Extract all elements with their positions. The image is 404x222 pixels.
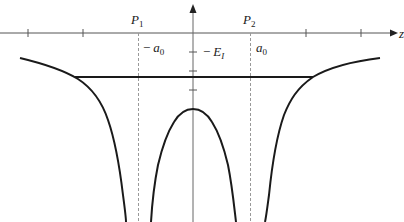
a0-label: a0 — [256, 41, 267, 57]
p2-letter: P — [243, 12, 251, 27]
right-potential-curve — [265, 58, 380, 222]
a0-sub: 0 — [263, 47, 268, 57]
neg-a0-label: −a0 — [143, 41, 164, 57]
p2-label: P2 — [243, 13, 255, 29]
neg-ei-label: −EI — [203, 45, 224, 61]
p1-sub: 1 — [139, 19, 144, 29]
neg-ei-sub: I — [221, 51, 224, 61]
x-axis-label-clipped: z — [399, 27, 404, 40]
p2-sub: 2 — [251, 19, 256, 29]
y-axis-arrow-icon — [190, 4, 197, 13]
neg-a0-minus: − — [143, 40, 150, 55]
p1-letter: P — [131, 12, 139, 27]
neg-ei-minus: − — [203, 44, 210, 59]
x-axis-label-text: z — [399, 26, 404, 41]
left-potential-curve — [20, 58, 126, 222]
neg-a0-sub: 0 — [160, 47, 165, 57]
x-axis-arrow-icon — [390, 30, 398, 37]
p1-label: P1 — [131, 13, 143, 29]
